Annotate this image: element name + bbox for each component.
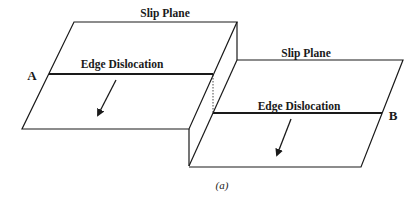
end-label-a: A [27,68,37,83]
left-slip-plane [22,22,237,129]
left-slip-plane-label: Slip Plane [140,7,190,20]
edge-dislocation-diagram: Slip Plane Edge Dislocation A Slip Plane… [0,0,420,201]
left-dislocation-label: Edge Dislocation [81,58,164,71]
diagram-canvas: Slip Plane Edge Dislocation A Slip Plane… [0,0,420,201]
right-slip-plane-label: Slip Plane [281,47,331,60]
right-slip-arrow-icon [277,119,291,155]
end-label-b: B [389,108,398,123]
left-slip-arrow-icon [98,80,116,115]
right-dislocation-label: Edge Dislocation [258,100,341,113]
figure-caption: (a) [216,179,229,192]
